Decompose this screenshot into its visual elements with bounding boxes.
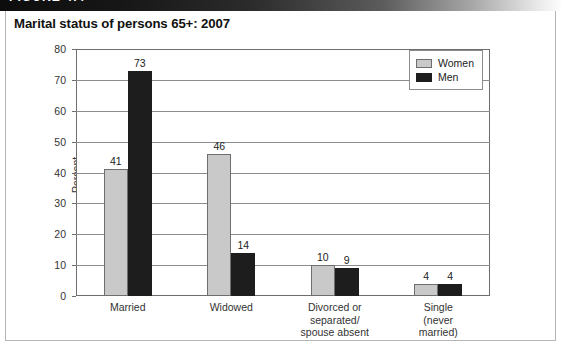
category-label-line: married) [383,326,493,339]
category-label-0: Married [73,301,183,314]
category-label-line: (never [383,314,493,327]
category-label-line: Widowed [176,301,286,314]
category-label-line: separated/ [280,314,390,327]
bar-women-3 [414,284,438,296]
legend-swatch-icon [416,59,432,68]
legend-item-women[interactable]: Women [416,56,476,70]
y-tick-mark [72,234,76,235]
y-tick-label: 60 [42,106,66,116]
y-tick-mark [72,111,76,112]
bar-value-label: 46 [199,141,239,152]
y-tick-label: 30 [42,198,66,208]
bar-men-2 [335,268,359,296]
bar-value-label: 9 [327,255,367,266]
y-tick-mark [72,296,76,297]
legend-label: Women [438,58,474,69]
y-tick-mark [72,173,76,174]
bar-women-1 [207,154,231,296]
bar-men-0 [128,71,152,296]
y-tick-mark [72,265,76,266]
y-tick-mark [72,203,76,204]
bar-women-0 [104,169,128,296]
legend: WomenMen [409,50,483,90]
category-label-line: Married [73,301,183,314]
figure-root: FIGURE 4.4 Marital status of persons 65+… [0,0,563,347]
category-label-3: Single(nevermarried) [383,301,493,339]
category-label-line: Divorced or [280,301,390,314]
y-tick-mark [72,49,76,50]
figure-banner: FIGURE 4.4 [0,0,563,11]
category-label-line: Single [383,301,493,314]
y-tick-label: 0 [42,291,66,301]
bar-value-label: 14 [223,240,263,251]
legend-swatch-icon [416,73,432,82]
y-tick-mark [72,80,76,81]
bar-men-3 [438,284,462,296]
legend-item-men[interactable]: Men [416,70,476,84]
y-tick-label: 20 [42,229,66,239]
bar-value-label: 73 [120,58,160,69]
y-tick-label: 50 [42,137,66,147]
y-tick-mark [72,142,76,143]
bar-value-label: 4 [430,271,470,282]
y-tick-label: 80 [42,44,66,54]
y-tick-label: 40 [42,168,66,178]
category-label-1: Widowed [176,301,286,314]
bar-men-1 [231,253,255,296]
category-label-line: spouse absent [280,326,390,339]
legend-label: Men [438,72,458,83]
figure-banner-label: FIGURE 4.4 [9,0,85,3]
y-tick-label: 70 [42,75,66,85]
chart-title: Marital status of persons 65+: 2007 [14,16,230,31]
bar-women-2 [311,265,335,296]
y-tick-label: 10 [42,260,66,270]
category-label-2: Divorced orseparated/spouse absent [280,301,390,339]
